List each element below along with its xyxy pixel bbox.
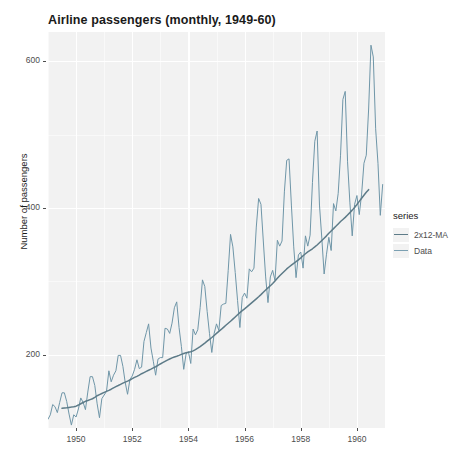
x-tick-mark: [245, 428, 246, 431]
plot-panel: [48, 32, 385, 428]
series-lines: [48, 32, 385, 428]
legend-item-label: Data: [414, 246, 432, 256]
x-tick-label: 1954: [179, 434, 198, 444]
legend-item[interactable]: 2x12-MA: [393, 227, 473, 242]
y-tick-mark: [43, 208, 46, 209]
series-line-data: [48, 45, 383, 425]
chart-title: Airline passengers (monthly, 1949-60): [48, 13, 276, 27]
chart-root: Airline passengers (monthly, 1949-60) 20…: [0, 0, 475, 475]
legend: series 2x12-MAData: [393, 210, 473, 259]
x-tick-label: 1950: [67, 434, 86, 444]
legend-item[interactable]: Data: [393, 243, 473, 258]
y-tick-label: 600: [26, 55, 40, 65]
x-tick-mark: [188, 428, 189, 431]
legend-title: series: [393, 210, 473, 221]
y-tick-label: 200: [26, 349, 40, 359]
y-tick-mark: [43, 355, 46, 356]
x-tick-mark: [132, 428, 133, 431]
y-axis-title: Number of passengers: [18, 132, 29, 272]
x-tick-label: 1956: [235, 434, 254, 444]
x-tick-mark: [357, 428, 358, 431]
legend-swatch-icon: [393, 244, 409, 258]
legend-item-label: 2x12-MA: [414, 230, 448, 240]
y-tick-mark: [43, 61, 46, 62]
x-tick-label: 1958: [291, 434, 310, 444]
legend-items: 2x12-MAData: [393, 227, 473, 258]
x-tick-mark: [301, 428, 302, 431]
x-tick-mark: [76, 428, 77, 431]
x-tick-label: 1952: [123, 434, 142, 444]
x-tick-label: 1960: [347, 434, 366, 444]
legend-swatch-icon: [393, 228, 409, 242]
x-axis-ticks: 195019521954195619581960: [48, 428, 385, 458]
